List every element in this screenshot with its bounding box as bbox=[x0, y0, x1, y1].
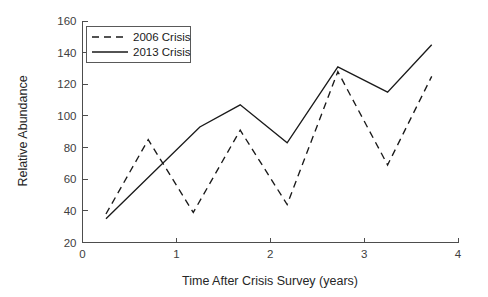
y-tick-label: 140 bbox=[57, 47, 76, 59]
x-tick-label: 4 bbox=[455, 248, 462, 260]
x-axis-ticks: 01234 bbox=[79, 238, 462, 260]
series-group bbox=[106, 45, 432, 219]
y-tick-label: 80 bbox=[64, 142, 77, 154]
y-tick-label: 100 bbox=[57, 110, 76, 122]
y-tick-label: 120 bbox=[57, 78, 76, 90]
y-tick-label: 20 bbox=[64, 237, 77, 249]
x-tick-label: 2 bbox=[267, 248, 273, 260]
x-tick-label: 0 bbox=[79, 248, 85, 260]
series-line-0 bbox=[106, 72, 432, 214]
line-chart: Relative Abundance Time After Crisis Sur… bbox=[0, 0, 488, 297]
y-tick-label: 60 bbox=[64, 173, 77, 185]
y-tick-label: 160 bbox=[57, 15, 76, 27]
y-axis-title: Relative Abundance bbox=[16, 75, 30, 186]
series-line-1 bbox=[106, 45, 432, 219]
x-axis-title: Time After Crisis Survey (years) bbox=[182, 274, 358, 288]
legend-label-0: 2006 Crisis bbox=[133, 31, 191, 43]
y-tick-label: 40 bbox=[64, 205, 77, 217]
legend-label-1: 2013 Crisis bbox=[133, 46, 191, 58]
x-tick-label: 1 bbox=[173, 248, 179, 260]
chart-figure: Relative Abundance Time After Crisis Sur… bbox=[0, 0, 488, 297]
chart-legend: 2006 Crisis 2013 Crisis bbox=[86, 26, 191, 62]
x-tick-label: 3 bbox=[361, 248, 367, 260]
